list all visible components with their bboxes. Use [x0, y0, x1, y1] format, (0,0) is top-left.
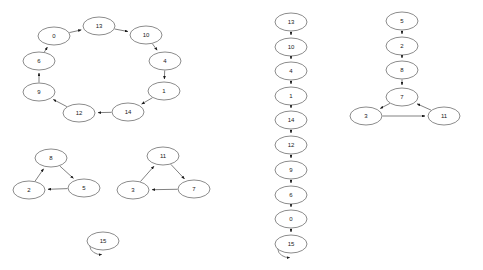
edge-3-to-11 [140, 166, 153, 181]
node-label-10: 10 [143, 32, 150, 38]
edge-8-to-5 [60, 166, 74, 178]
node-label-11: 11 [441, 113, 448, 119]
node-1[interactable]: 1 [275, 87, 307, 105]
nodes-layer: 0131041141296852117315131041141296015528… [13, 12, 460, 253]
edge-12-to-9 [53, 100, 67, 107]
node-5[interactable]: 5 [386, 12, 418, 30]
edge-6-to-0 [44, 47, 47, 52]
node-6[interactable]: 6 [275, 186, 307, 204]
edge-5-to-2 [48, 189, 68, 190]
edge-2-to-8 [35, 169, 43, 181]
node-label-14: 14 [288, 117, 295, 123]
node-14[interactable]: 14 [112, 103, 144, 121]
node-7[interactable]: 7 [386, 88, 418, 106]
node-2[interactable]: 2 [386, 37, 418, 55]
node-10[interactable]: 10 [130, 26, 162, 44]
diagram-canvas: 0131041141296852117315131041141296015528… [0, 0, 483, 270]
node-9[interactable]: 9 [275, 161, 307, 179]
node-8[interactable]: 8 [35, 149, 67, 167]
edge-11-to-7 [417, 104, 431, 110]
node-13[interactable]: 13 [275, 13, 307, 31]
node-label-13: 13 [288, 19, 295, 25]
edges-layer [35, 29, 431, 258]
node-label-12: 12 [288, 142, 295, 148]
edge-0-to-13 [69, 30, 81, 33]
node-12[interactable]: 12 [275, 136, 307, 154]
node-label-13: 13 [96, 23, 103, 29]
node-10[interactable]: 10 [275, 38, 307, 56]
node-3[interactable]: 3 [350, 107, 382, 125]
edge-11-to-7 [171, 164, 185, 179]
edge-13-to-10 [115, 29, 128, 32]
node-9[interactable]: 9 [23, 83, 55, 101]
node-13[interactable]: 13 [83, 17, 115, 35]
node-4[interactable]: 4 [275, 62, 307, 80]
node-14[interactable]: 14 [275, 111, 307, 129]
node-8[interactable]: 8 [386, 61, 418, 79]
node-7[interactable]: 7 [178, 180, 210, 198]
node-label-12: 12 [76, 110, 83, 116]
edge-7-to-3 [380, 103, 390, 108]
node-4[interactable]: 4 [149, 52, 181, 70]
node-0[interactable]: 0 [38, 27, 70, 45]
node-11[interactable]: 11 [428, 107, 460, 125]
node-11[interactable]: 11 [147, 147, 179, 165]
node-2[interactable]: 2 [13, 181, 45, 199]
node-6[interactable]: 6 [23, 52, 55, 70]
node-3[interactable]: 3 [117, 181, 149, 199]
node-15[interactable]: 15 [87, 232, 119, 250]
edge-10-to-4 [152, 44, 157, 51]
node-1[interactable]: 1 [148, 82, 180, 100]
node-label-15: 15 [100, 238, 107, 244]
node-12[interactable]: 12 [63, 104, 95, 122]
node-label-11: 11 [160, 153, 167, 159]
node-label-14: 14 [125, 109, 132, 115]
node-15[interactable]: 15 [275, 235, 307, 253]
node-label-15: 15 [288, 241, 295, 247]
node-0[interactable]: 0 [275, 210, 307, 228]
node-5[interactable]: 5 [68, 179, 100, 197]
graph-svg: 0131041141296852117315131041141296015528… [0, 0, 483, 270]
node-label-10: 10 [288, 44, 295, 50]
edge-1-to-14 [142, 98, 153, 104]
